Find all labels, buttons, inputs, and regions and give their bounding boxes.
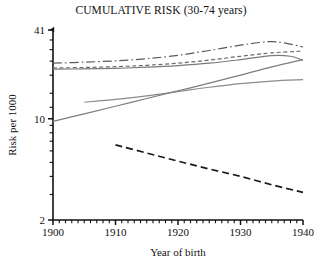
- data-series-group: [53, 42, 303, 193]
- x-tick-label: 1900: [42, 226, 65, 238]
- y-tick-label: 2: [40, 214, 46, 226]
- x-tick-label: 1930: [230, 226, 253, 238]
- data-line-series-6: [116, 145, 304, 193]
- data-line-series-1: [53, 42, 303, 64]
- x-tick-label: 1910: [105, 226, 128, 238]
- chart-plot-area: 1900191019201930194021041Year of birthRi…: [0, 0, 322, 267]
- y-tick-label: 41: [34, 24, 45, 36]
- x-tick-label: 1920: [167, 226, 190, 238]
- y-tick-label: 10: [34, 113, 46, 125]
- chart-container: CUMULATIVE RISK (30-74 years) 1900191019…: [0, 0, 322, 267]
- y-axis-title: Risk per 1000: [6, 94, 18, 156]
- x-axis-title: Year of birth: [150, 246, 206, 258]
- x-tick-label: 1940: [292, 226, 315, 238]
- data-line-series-4: [84, 80, 303, 103]
